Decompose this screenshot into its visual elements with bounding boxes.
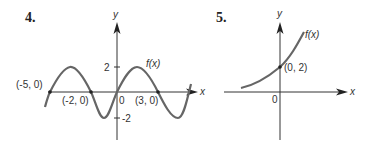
origin-label: 0 bbox=[272, 94, 278, 105]
point-neg5-0 bbox=[48, 90, 52, 94]
tick-label-neg2: -2 bbox=[122, 113, 131, 124]
y-axis-label: y bbox=[112, 9, 119, 20]
curve-label: f(x) bbox=[305, 29, 319, 40]
point-neg2-0 bbox=[89, 90, 93, 94]
problem-number-4: 4. bbox=[25, 10, 36, 25]
figure: 4. y 2 -2 0 (-5, 0) (-2, 0) (3, 0) f(x) … bbox=[0, 0, 369, 149]
point-3-0 bbox=[156, 90, 160, 94]
graph-5: 5. y x 0 (0, 2) f(x) bbox=[216, 8, 356, 140]
y-axis-label: y bbox=[276, 8, 283, 19]
point-label-3: (3, 0) bbox=[135, 95, 158, 106]
point-label-0-2: (0, 2) bbox=[284, 62, 307, 73]
point-label-neg2: (-2, 0) bbox=[62, 95, 89, 106]
x-axis-label: x bbox=[199, 86, 206, 97]
problem-number-5: 5. bbox=[216, 10, 227, 25]
point-label-neg5: (-5, 0) bbox=[16, 79, 43, 90]
origin-label: 0 bbox=[119, 95, 125, 106]
curve-fx bbox=[241, 32, 304, 88]
x-axis-label: x bbox=[349, 86, 356, 97]
tick-label-2: 2 bbox=[104, 62, 110, 73]
curve-label: f(x) bbox=[146, 58, 160, 69]
point-0-2 bbox=[278, 65, 282, 69]
graph-4: 4. y 2 -2 0 (-5, 0) (-2, 0) (3, 0) f(x) … bbox=[16, 9, 206, 140]
